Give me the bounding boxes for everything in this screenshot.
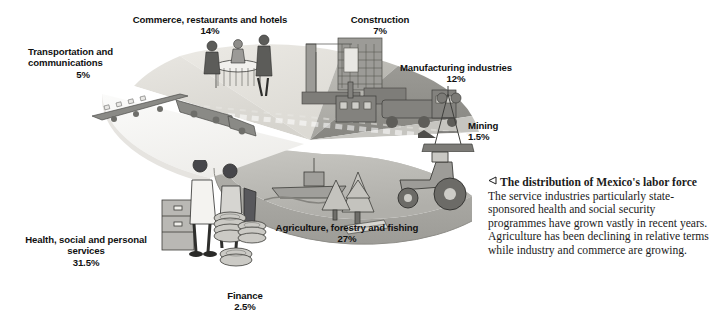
slice-label-construction-pct: 7%	[330, 25, 430, 36]
caption-body: The service industries particularly stat…	[488, 190, 716, 258]
caption-heading: The distribution of Mexico's labor force	[500, 176, 697, 189]
slice-label-mining: Mining 1.5%	[468, 120, 524, 143]
slice-label-commerce-pct: 14%	[112, 25, 308, 36]
slice-label-mining-pct: 1.5%	[468, 131, 524, 142]
slice-label-agriculture-name: Agriculture, forestry and fishing	[276, 222, 419, 233]
slice-label-transport: Transportation and communications 5%	[28, 46, 138, 80]
slice-label-commerce: Commerce, restaurants and hotels 14%	[112, 14, 308, 37]
restaurant-diners-illustration	[194, 30, 286, 102]
slice-label-agriculture: Agriculture, forestry and fishing 27%	[258, 222, 436, 245]
slice-label-health-name: Health, social and personal services	[25, 234, 147, 256]
slice-label-transport-name: Transportation and communications	[28, 46, 113, 68]
figure-caption: The distribution of Mexico's labor force…	[488, 176, 716, 258]
slice-label-transport-pct: 5%	[28, 69, 138, 80]
slice-label-manufacturing-name: Manufacturing industries	[400, 62, 512, 73]
slice-label-commerce-name: Commerce, restaurants and hotels	[133, 14, 288, 25]
slice-label-manufacturing-pct: 12%	[380, 73, 532, 84]
tractor-illustration	[390, 146, 476, 216]
slice-label-manufacturing: Manufacturing industries 12%	[380, 62, 532, 85]
slice-label-mining-name: Mining	[468, 120, 498, 131]
slice-label-health-pct: 31.5%	[12, 257, 160, 268]
slice-label-finance-name: Finance	[227, 290, 263, 301]
slice-label-construction-name: Construction	[351, 14, 410, 25]
figure-canvas: Commerce, restaurants and hotels 14% Tra…	[0, 0, 723, 334]
slice-label-construction: Construction 7%	[330, 14, 430, 37]
slice-label-finance-pct: 2.5%	[208, 301, 282, 312]
slice-label-finance: Finance 2.5%	[208, 290, 282, 313]
slice-label-health: Health, social and personal services 31.…	[12, 234, 160, 268]
caption-marker-triangle-icon	[488, 176, 497, 187]
slice-label-agriculture-pct: 27%	[258, 233, 436, 244]
coal-heap	[418, 130, 436, 138]
